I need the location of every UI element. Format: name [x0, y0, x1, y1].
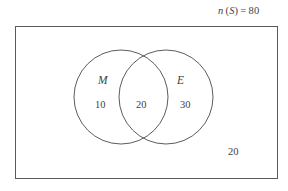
- venn-diagram-figure: n(S)=80 M E 10 20 30 20: [0, 0, 288, 191]
- count-e-only: 30: [180, 100, 191, 111]
- venn-diagram-canvas: [0, 0, 288, 191]
- set-circle-m: [74, 50, 168, 144]
- set-label-m: M: [98, 75, 108, 87]
- count-intersection: 20: [136, 100, 147, 111]
- set-circle-e: [119, 50, 213, 144]
- count-m-only: 10: [95, 100, 106, 111]
- universe-cardinality-label: n(S)=80: [218, 6, 259, 17]
- count-outside-sets: 20: [228, 147, 239, 158]
- set-label-e: E: [177, 75, 184, 87]
- universe-total-value: 80: [248, 5, 259, 16]
- universal-set-symbol: S: [229, 5, 234, 16]
- cardinality-function-symbol: n: [218, 5, 223, 16]
- equals-sign: =: [240, 5, 246, 16]
